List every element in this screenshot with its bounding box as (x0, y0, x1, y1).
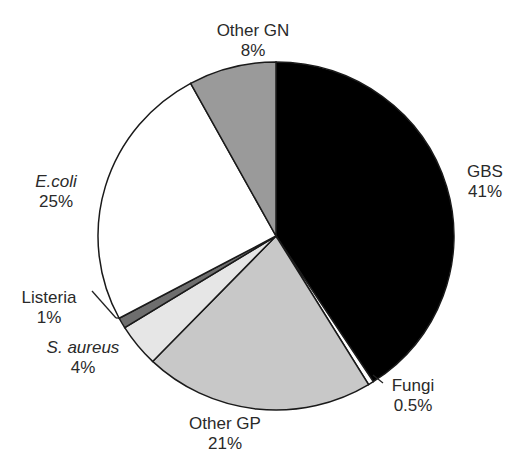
label-e-coli: E.coli25% (26, 172, 86, 212)
label-listeria: Listeria1% (14, 288, 84, 328)
label-s-aureus: S. aureus4% (38, 338, 128, 378)
label-other-gn: Other GN8% (208, 21, 298, 61)
label-other-gp: Other GP21% (180, 414, 270, 454)
label-gbs: GBS41% (455, 162, 515, 202)
label-fungi: Fungi0.5% (383, 376, 443, 416)
